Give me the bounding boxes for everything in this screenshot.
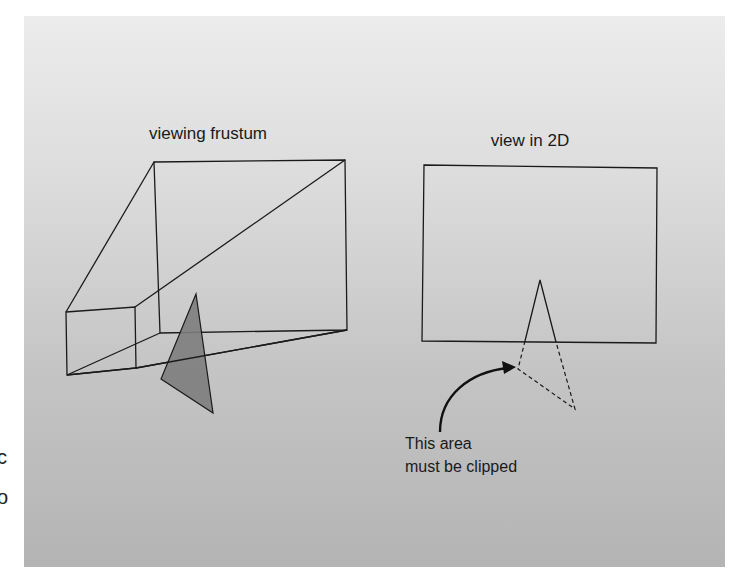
frustum-near-bottom <box>67 368 136 375</box>
triangle-clipped-portion <box>518 341 575 409</box>
frustum-edge-top-left <box>66 162 154 312</box>
frustum-far-plane <box>154 160 347 333</box>
view-2d: view in 2D This area must be clipped <box>405 131 657 475</box>
frustum-edge-bottom-left <box>67 333 160 375</box>
viewport-rectangle <box>422 165 657 343</box>
frustum-title: viewing frustum <box>149 124 267 143</box>
frustum-edge-top-right <box>135 160 345 307</box>
triangle-visible-portion <box>525 280 556 342</box>
clip-annotation-line2: must be clipped <box>405 458 517 475</box>
triangle-primitive <box>161 294 213 413</box>
frustum-wireframe <box>66 160 347 375</box>
arrow-head-icon <box>502 361 516 374</box>
frustum-near-plane <box>66 307 136 375</box>
arrow-curve <box>440 368 508 432</box>
figure-stage: c o viewing frustum <box>0 0 750 587</box>
viewing-frustum: viewing frustum <box>66 124 347 413</box>
clip-annotation-line1: This area <box>405 435 472 452</box>
frustum-edge-overlay <box>136 330 347 368</box>
diagram-canvas: viewing frustum view in 2D <box>0 0 750 587</box>
view-2d-title: view in 2D <box>491 131 569 150</box>
